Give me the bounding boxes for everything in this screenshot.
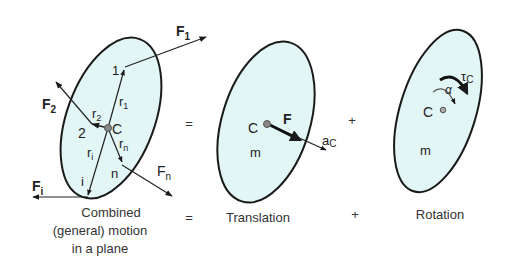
label-accel-aC: aC — [322, 133, 336, 149]
plus-sign-bottom: + — [351, 207, 359, 222]
label-center-C: C — [112, 121, 122, 137]
label-mass-m: m — [250, 145, 261, 160]
rigid-body-rotation — [377, 20, 499, 203]
label-center-C: C — [423, 104, 433, 120]
center-of-mass-dot — [440, 107, 446, 113]
center-of-mass-dot — [264, 121, 271, 128]
plus-sign-top: + — [348, 113, 356, 128]
label-Fi: Fi — [32, 178, 44, 197]
label-center-C: C — [248, 120, 258, 136]
label-Fn: Fn — [157, 163, 171, 182]
label-force-F: F — [283, 111, 292, 127]
panel-general-motion: F1 F2 Fi Fn r1 r2 ri rn 1 2 i n C Combin… — [32, 23, 206, 256]
label-F1: F1 — [176, 23, 191, 42]
label-F2: F2 — [42, 96, 57, 115]
label-point-2: 2 — [78, 125, 86, 141]
caption-general-line2: (general) motion — [53, 223, 148, 238]
caption-rotation: Rotation — [416, 207, 464, 222]
equals-sign-top: = — [185, 116, 193, 131]
panel-translation: C m F aC Translation — [200, 30, 337, 225]
equals-sign-bottom: = — [185, 210, 193, 225]
label-point-i: i — [81, 174, 84, 189]
label-mass-m: m — [420, 143, 431, 158]
caption-general-line1: Combined — [81, 205, 140, 220]
caption-translation: Translation — [226, 210, 290, 225]
label-point-1: 1 — [112, 63, 119, 78]
caption-general-line3: in a plane — [72, 241, 128, 256]
center-of-mass-dot — [105, 125, 112, 132]
motion-decomposition-diagram: F1 F2 Fi Fn r1 r2 ri rn 1 2 i n C Combin… — [0, 0, 515, 266]
panel-rotation: C m α τC Rotation — [377, 20, 499, 222]
label-alpha: α — [445, 83, 453, 97]
label-point-n: n — [111, 166, 118, 181]
